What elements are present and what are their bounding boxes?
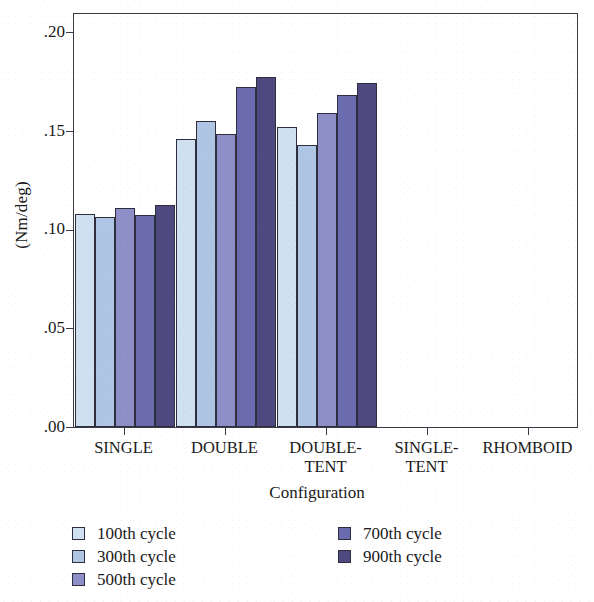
bar-group xyxy=(277,14,377,427)
bar-group xyxy=(479,14,579,427)
legend-item: 300th cycle xyxy=(72,545,176,568)
bar xyxy=(277,127,297,427)
legend-label: 300th cycle xyxy=(97,547,176,567)
bar xyxy=(155,205,175,427)
legend-label: 700th cycle xyxy=(363,524,442,544)
bar xyxy=(256,77,276,427)
y-axis-tick-label: .20 xyxy=(5,22,65,42)
legend-column-2: 700th cycle900th cycle xyxy=(338,522,442,568)
legend-swatch-icon xyxy=(72,527,85,540)
x-axis-tick xyxy=(124,428,125,435)
legend-label: 500th cycle xyxy=(97,570,176,590)
bar xyxy=(176,139,196,427)
legend-item: 700th cycle xyxy=(338,522,442,545)
bar-group xyxy=(176,14,276,427)
y-axis-tick xyxy=(66,230,73,231)
y-axis-tick xyxy=(66,328,73,329)
bar xyxy=(95,217,115,427)
plot-area xyxy=(73,13,578,428)
legend-column-1: 100th cycle300th cycle500th cycle xyxy=(72,522,176,591)
bar-chart-figure: (Nm/deg) .20.15.10.05.00 SINGLEDOUBLEDOU… xyxy=(0,0,594,602)
y-axis-tick-label: .15 xyxy=(5,121,65,141)
bar-group xyxy=(75,14,175,427)
y-axis-tick-label: .00 xyxy=(5,417,65,437)
bar xyxy=(135,215,155,427)
legend-swatch-icon xyxy=(338,527,351,540)
legend-label: 100th cycle xyxy=(97,524,176,544)
y-axis-tick-label: .10 xyxy=(5,219,65,239)
x-axis-tick xyxy=(225,428,226,435)
legend-item: 500th cycle xyxy=(72,568,176,591)
y-axis-tick xyxy=(66,131,73,132)
y-axis-tick-label: .05 xyxy=(5,318,65,338)
bars-layer xyxy=(74,14,577,427)
legend-swatch-icon xyxy=(72,550,85,563)
bar xyxy=(297,145,317,427)
bar-group xyxy=(378,14,478,427)
x-axis-title: Configuration xyxy=(0,483,594,503)
legend-swatch-icon xyxy=(72,573,85,586)
y-axis-tick xyxy=(66,427,73,428)
bar xyxy=(317,113,337,427)
x-axis-tick xyxy=(326,428,327,435)
bar xyxy=(357,83,377,427)
y-axis-title: (Nm/deg) xyxy=(12,155,32,275)
bar xyxy=(75,214,95,427)
bar xyxy=(216,134,236,427)
legend-label: 900th cycle xyxy=(363,547,442,567)
x-axis-tick xyxy=(528,428,529,435)
bar xyxy=(115,208,135,427)
chart-legend: 100th cycle300th cycle500th cycle 700th … xyxy=(72,522,572,592)
bar xyxy=(196,121,216,427)
x-axis-category-label: RHOMBOID xyxy=(463,438,593,457)
y-axis-tick xyxy=(66,32,73,33)
legend-item: 900th cycle xyxy=(338,545,442,568)
x-axis-tick xyxy=(427,428,428,435)
bar xyxy=(236,87,256,427)
legend-swatch-icon xyxy=(338,550,351,563)
bar xyxy=(337,95,357,427)
legend-item: 100th cycle xyxy=(72,522,176,545)
